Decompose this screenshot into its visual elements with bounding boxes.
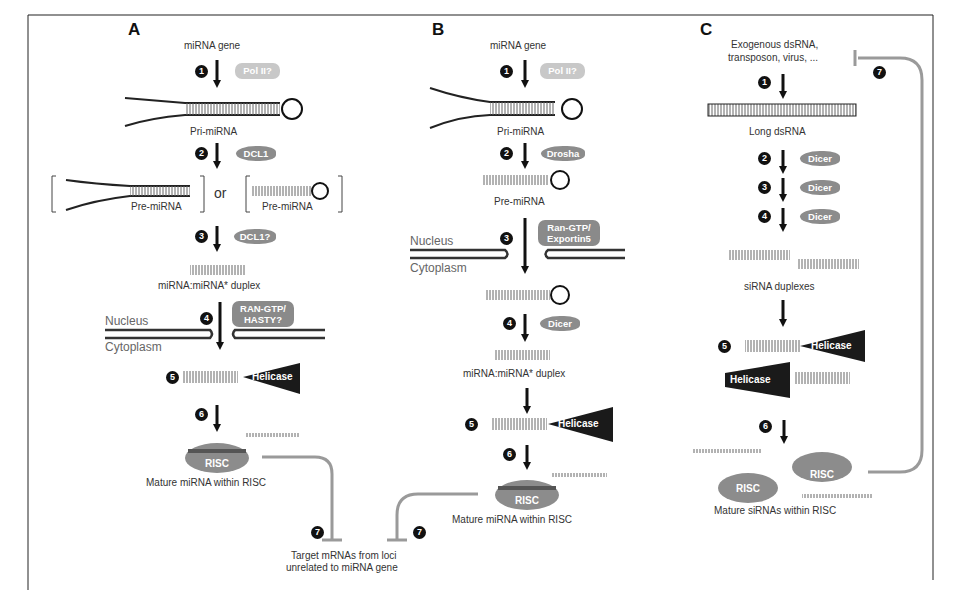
ran-gtp-line: RAN-GTP/ xyxy=(232,303,294,314)
dicer-enzyme-b: Dicer xyxy=(540,316,580,331)
exogenous-dsrna-line-2: transposon, virus, ... xyxy=(728,52,818,63)
rnai-pathway-figure: A miRNA gene 1 Pol II? Pri-miRNA 2 DCL1 … xyxy=(0,0,963,603)
step-1-icon-c: 1 xyxy=(758,76,771,89)
nuclear-membrane-b xyxy=(410,250,625,258)
pri-mirna-hairpin-b xyxy=(430,88,582,128)
step-5-icon-c: 5 xyxy=(718,340,731,353)
nuclear-membrane-a xyxy=(105,330,325,338)
step-3-icon: 3 xyxy=(195,230,208,243)
ran-gtp-hasty-label: RAN-GTP/ HASTY? xyxy=(232,301,294,327)
step-6-icon: 6 xyxy=(195,408,208,421)
helicase-label-c2: Helicase xyxy=(730,374,771,385)
dcl1-enzyme-2: DCL1? xyxy=(234,229,276,244)
step-1-icon: 1 xyxy=(195,65,208,78)
step-6-icon-c: 6 xyxy=(759,420,772,433)
dicer-enzyme-c2: Dicer xyxy=(800,180,840,195)
pol-ii-label: Pol II? xyxy=(235,63,280,79)
ran-gtp-line-b: Ran-GTP/ xyxy=(538,222,600,233)
step-4-icon-c: 4 xyxy=(758,210,771,223)
pol-ii-label-b: Pol II? xyxy=(540,63,585,79)
panel-b-start-label: miRNA gene xyxy=(490,40,546,51)
step-4-icon-b: 4 xyxy=(503,317,516,330)
step-7-icon-b: 7 xyxy=(413,526,426,539)
step-7-icon-a: 7 xyxy=(311,526,324,539)
mature-mirna-label-b: Mature miRNA within RISC xyxy=(452,514,572,525)
dicer-enzyme-c3: Dicer xyxy=(800,209,840,224)
sirna-duplexes-label: siRNA duplexes xyxy=(744,281,815,292)
target-line-2: unrelated to miRNA gene xyxy=(286,562,398,573)
pre-mirna-label-left: Pre-miRNA xyxy=(131,201,182,212)
panel-a-start-label: miRNA gene xyxy=(184,40,240,51)
mature-sirna-label: Mature siRNAs within RISC xyxy=(714,505,836,516)
target-line-1: Target mRNAs from loci xyxy=(291,550,397,561)
or-label: or xyxy=(214,185,226,201)
step-5-icon-b: 5 xyxy=(465,418,478,431)
step-2-icon-b: 2 xyxy=(500,147,513,160)
panel-a-letter: A xyxy=(128,20,140,40)
step-4-icon: 4 xyxy=(200,312,213,325)
ran-gtp-exportin5-label: Ran-GTP/ Exportin5 xyxy=(538,220,600,246)
risc-label-b: RISC xyxy=(515,495,539,506)
pre-mirna-label-b: Pre-miRNA xyxy=(494,196,545,207)
cytoplasm-label-a: Cytoplasm xyxy=(105,340,162,354)
drosha-enzyme: Drosha xyxy=(541,146,585,161)
step-2-icon: 2 xyxy=(195,147,208,160)
helicase-label-c1: Helicase xyxy=(811,340,852,351)
nucleus-label-b: Nucleus xyxy=(410,234,453,248)
step-1-icon-b: 1 xyxy=(500,65,513,78)
long-dsrna-label: Long dsRNA xyxy=(749,126,806,137)
step-6-icon-b: 6 xyxy=(503,448,516,461)
cytoplasm-label-b: Cytoplasm xyxy=(410,261,467,275)
nucleus-label-a: Nucleus xyxy=(105,314,148,328)
helicase-label-b: Helicase xyxy=(558,418,599,429)
dcl1-enzyme: DCL1 xyxy=(236,146,276,161)
step-2-icon-c: 2 xyxy=(758,152,771,165)
duplex-label-b: miRNA:miRNA* duplex xyxy=(463,368,565,379)
step-3-icon-c: 3 xyxy=(758,181,771,194)
helicase-label-a: Helicase xyxy=(252,371,293,382)
pre-mirna-label-right: Pre-miRNA xyxy=(262,201,313,212)
risc-label-a: RISC xyxy=(205,458,229,469)
dicer-enzyme-c1: Dicer xyxy=(800,151,840,166)
pri-mirna-hairpin-a xyxy=(125,98,302,126)
panel-c-graphics xyxy=(692,50,922,503)
risc-label-c1: RISC xyxy=(810,469,834,480)
duplex-label-a: miRNA:miRNA* duplex xyxy=(158,280,260,291)
step-7-icon-c: 7 xyxy=(873,66,886,79)
panel-b-letter: B xyxy=(432,20,444,40)
pri-mirna-label: Pri-miRNA xyxy=(190,126,237,137)
step-5-icon: 5 xyxy=(166,371,179,384)
hasty-line: HASTY? xyxy=(232,314,294,325)
panel-c-letter: C xyxy=(700,20,712,40)
pri-mirna-label-b: Pri-miRNA xyxy=(497,126,544,137)
exogenous-dsrna-line-1: Exogenous dsRNA, xyxy=(731,39,818,50)
risc-label-c2: RISC xyxy=(736,483,760,494)
step-3-icon-b: 3 xyxy=(500,232,513,245)
exportin5-line: Exportin5 xyxy=(538,233,600,244)
mature-mirna-label-a: Mature miRNA within RISC xyxy=(146,477,266,488)
